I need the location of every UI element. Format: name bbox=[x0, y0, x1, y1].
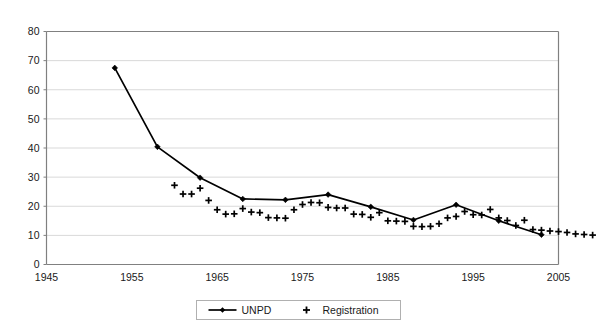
y-tick-label: 70 bbox=[28, 54, 40, 66]
x-tick-label: 2005 bbox=[547, 271, 571, 283]
y-tick-label: 40 bbox=[28, 142, 40, 154]
x-tick-label: 1945 bbox=[35, 271, 59, 283]
x-tick-label: 1955 bbox=[120, 271, 144, 283]
x-tick-label: 1965 bbox=[205, 271, 229, 283]
legend-label-unpd: UNPD bbox=[242, 304, 272, 316]
y-tick-label: 60 bbox=[28, 84, 40, 96]
y-tick-label: 20 bbox=[28, 200, 40, 212]
x-tick-label: 1975 bbox=[291, 271, 315, 283]
y-tick-label: 10 bbox=[28, 229, 40, 241]
y-tick-label: 30 bbox=[28, 171, 40, 183]
x-tick-label: 1985 bbox=[376, 271, 400, 283]
x-tick-label: 1995 bbox=[461, 271, 485, 283]
y-tick-label: 50 bbox=[28, 113, 40, 125]
legend-label-registration: Registration bbox=[323, 304, 379, 316]
chart-container: 01020304050607080 1945195519651975198519… bbox=[0, 0, 597, 332]
y-tick-label: 0 bbox=[34, 258, 40, 270]
y-tick-label: 80 bbox=[28, 25, 40, 37]
line-chart: 01020304050607080 1945195519651975198519… bbox=[0, 0, 597, 332]
chart-legend: UNPDRegistration bbox=[197, 301, 401, 320]
